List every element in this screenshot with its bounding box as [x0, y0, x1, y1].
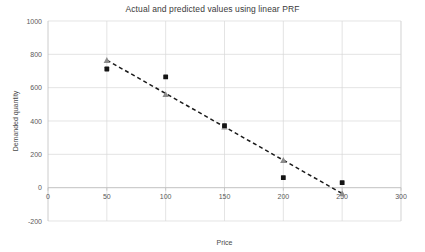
- y-tick-label-1000: 1000: [26, 18, 42, 25]
- x-tick-label-200: 200: [277, 193, 289, 200]
- x-axis-title: Price: [217, 239, 233, 246]
- marker-actual-150: [222, 123, 227, 128]
- marker-actual-250: [340, 180, 345, 185]
- marker-actual-200: [281, 175, 286, 180]
- marker-actual-100: [163, 74, 168, 79]
- y-tick-label-600: 600: [30, 84, 42, 91]
- y-tick-label--200: -200: [28, 218, 42, 225]
- y-axis-title: Demanded quantity: [12, 90, 20, 151]
- y-tick-label-800: 800: [30, 51, 42, 58]
- x-tick-label-300: 300: [395, 193, 407, 200]
- x-tick-label-0: 0: [46, 193, 50, 200]
- marker-actual-50: [104, 67, 109, 72]
- x-tick-label-50: 50: [103, 193, 111, 200]
- x-tick-label-150: 150: [219, 193, 231, 200]
- y-tick-label-0: 0: [38, 184, 42, 191]
- y-tick-labels: -20002004006008001000: [26, 18, 42, 225]
- y-tick-label-200: 200: [30, 151, 42, 158]
- plot-area: -20002004006008001000 050100150200250300…: [0, 0, 425, 252]
- x-tick-label-100: 100: [160, 193, 172, 200]
- y-tick-label-400: 400: [30, 118, 42, 125]
- chart-container: Actual and predicted values using linear…: [0, 0, 425, 252]
